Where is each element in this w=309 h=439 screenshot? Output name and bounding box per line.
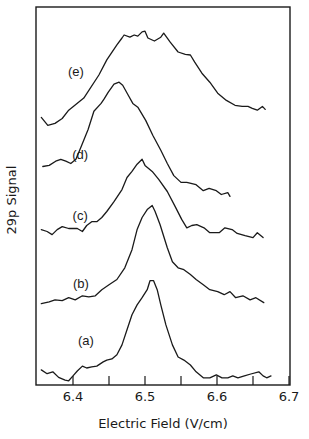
y-axis-label: 29p Signal — [4, 166, 19, 235]
x-axis-ticks — [73, 376, 289, 385]
curve-label-a: (a) — [78, 333, 94, 348]
x-axis-label: Electric Field (V/cm) — [98, 416, 228, 431]
curve-a — [41, 281, 271, 381]
curves — [41, 31, 271, 381]
x-tick-label: 6.4 — [63, 389, 84, 404]
x-axis-tick-labels: 6.46.56.66.7 — [63, 389, 300, 404]
curve-label-d: (d) — [72, 147, 88, 162]
curve-c — [41, 159, 263, 237]
x-tick-label: 6.5 — [135, 389, 156, 404]
line-chart: 6.46.56.66.7 (a)(b)(c)(d)(e) Electric Fi… — [0, 0, 309, 439]
curve-label-e: (e) — [68, 64, 84, 79]
curve-labels: (a)(b)(c)(d)(e) — [68, 64, 94, 347]
curve-label-b: (b) — [73, 276, 89, 291]
curve-d — [43, 82, 230, 196]
curve-label-c: (c) — [73, 208, 88, 223]
x-tick-label: 6.6 — [207, 389, 228, 404]
x-tick-label: 6.7 — [279, 389, 300, 404]
